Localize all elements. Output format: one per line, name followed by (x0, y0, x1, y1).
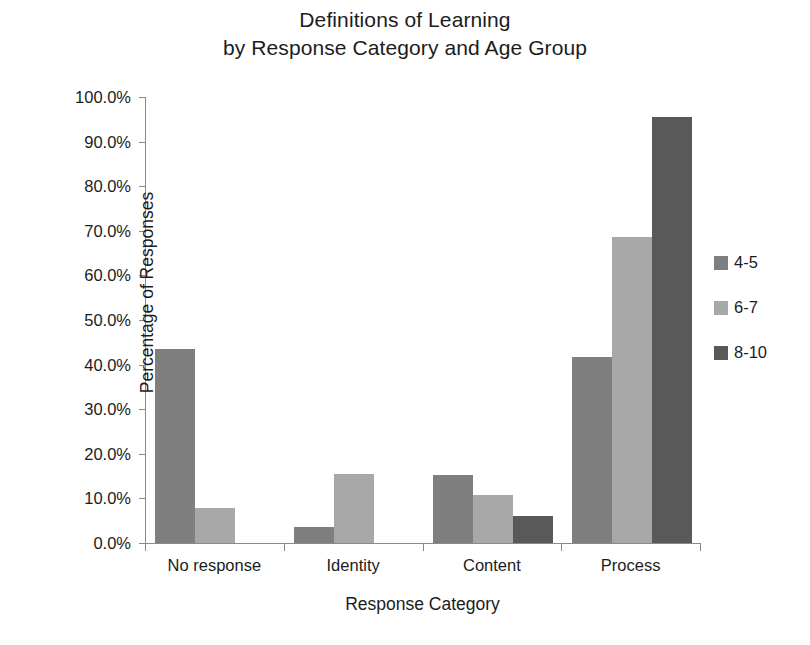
legend: 4-56-78-10 (714, 240, 804, 375)
category-label-identity: Identity (283, 556, 423, 575)
x-tick-mark (561, 544, 562, 551)
legend-item-4-5[interactable]: 4-5 (714, 240, 804, 285)
y-tick-label: 20.0% (49, 446, 131, 462)
y-tick-label: 90.0% (49, 134, 131, 150)
bar-no-response-6-7 (195, 508, 235, 543)
bar-content-6-7 (473, 495, 513, 543)
bar-process-6-7 (612, 237, 652, 543)
chart-title-line-1: Definitions of Learning (0, 6, 810, 34)
y-tick-label: 60.0% (49, 267, 131, 283)
bar-identity-4-5 (294, 527, 334, 543)
y-tick-mark (139, 498, 145, 499)
x-axis-title: Response Category (145, 594, 700, 615)
legend-swatch-icon (714, 301, 728, 315)
y-tick-label: 10.0% (49, 490, 131, 506)
x-tick-mark (423, 544, 424, 551)
x-tick-mark (145, 544, 146, 551)
legend-label: 4-5 (734, 253, 758, 272)
y-tick-label: 30.0% (49, 401, 131, 417)
y-tick-label: 50.0% (49, 312, 131, 328)
bar-content-8-10 (513, 516, 553, 543)
y-tick-label: 0.0% (49, 535, 131, 551)
bar-content-4-5 (433, 475, 473, 543)
legend-swatch-icon (714, 346, 728, 360)
bar-chart-figure: Definitions of Learning by Response Cate… (0, 0, 810, 645)
bar-no-response-4-5 (155, 349, 195, 543)
bar-identity-6-7 (334, 474, 374, 543)
category-label-content: Content (422, 556, 562, 575)
legend-label: 8-10 (734, 343, 767, 362)
legend-item-6-7[interactable]: 6-7 (714, 285, 804, 330)
chart-title: Definitions of Learning by Response Cate… (0, 6, 810, 62)
legend-swatch-icon (714, 256, 728, 270)
chart-title-line-2: by Response Category and Age Group (0, 34, 810, 62)
y-tick-label: 80.0% (49, 178, 131, 194)
x-tick-mark (284, 544, 285, 551)
y-tick-label: 40.0% (49, 357, 131, 373)
y-tick-label: 70.0% (49, 223, 131, 239)
plot-area: 0.0%10.0%20.0%30.0%40.0%50.0%60.0%70.0%8… (145, 97, 700, 543)
bar-process-8-10 (652, 117, 692, 543)
category-label-no-response: No response (144, 556, 284, 575)
category-label-process: Process (561, 556, 701, 575)
y-tick-mark (139, 97, 145, 98)
y-tick-label: 100.0% (49, 89, 131, 105)
legend-item-8-10[interactable]: 8-10 (714, 330, 804, 375)
legend-label: 6-7 (734, 298, 758, 317)
bar-process-4-5 (572, 357, 612, 543)
x-tick-mark (700, 544, 701, 551)
y-axis-title: Percentage of Responses (137, 128, 158, 458)
